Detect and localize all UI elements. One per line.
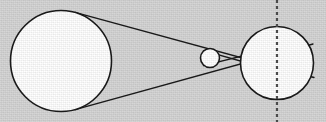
diagram-canvas (0, 0, 326, 122)
large-left-circle (11, 11, 112, 112)
small-middle-circle (201, 49, 220, 68)
eclipse-geometry-svg (0, 0, 326, 122)
